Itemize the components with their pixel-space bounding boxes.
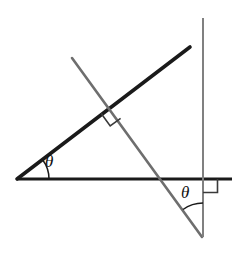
right-theta-arc [183,203,203,210]
descending-gray-transversal [72,58,202,237]
geometry-diagram: θ θ [0,0,246,255]
diagram-canvas [0,0,246,255]
theta-label-left: θ [45,153,53,170]
ascending-black-ray [17,47,190,179]
theta-label-right: θ [181,184,189,201]
perpendicular-right-angle-mark [101,114,120,127]
baseline-vertical-right-angle-mark [203,179,218,193]
